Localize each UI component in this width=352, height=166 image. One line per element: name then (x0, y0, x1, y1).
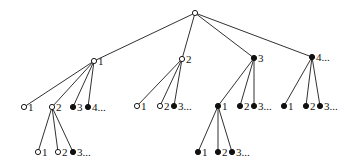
open-node-dot-icon (55, 149, 60, 154)
tree-nodes: 1234...1234...123...123...123...123...12… (21, 10, 338, 158)
open-node-dot-icon (134, 103, 139, 108)
filled-node-dot-icon (251, 55, 256, 60)
tree-edge (306, 57, 312, 106)
open-node-dot-icon (192, 10, 197, 15)
tree-node-n3_1: 1 (215, 100, 227, 112)
node-label: 1 (288, 100, 294, 112)
filled-node-dot-icon (215, 103, 220, 108)
tree-edge (195, 13, 312, 57)
node-label: 4... (92, 101, 106, 113)
node-label: 1 (42, 146, 48, 158)
tree-edge (195, 13, 254, 58)
filled-node-dot-icon (215, 149, 220, 154)
node-label: 1 (28, 101, 34, 113)
filled-node-dot-icon (229, 149, 234, 154)
open-node-dot-icon (49, 104, 54, 109)
filled-node-dot-icon (281, 103, 286, 108)
node-label: 1 (141, 100, 147, 112)
tree-edge (240, 58, 254, 106)
node-label: 2 (244, 100, 250, 112)
filled-node-dot-icon (85, 104, 90, 109)
tree-node-n3_1_1: 1 (195, 146, 207, 158)
filled-node-dot-icon (303, 103, 308, 108)
tree-node-n1_2: 2 (49, 101, 61, 113)
filled-node-dot-icon (171, 103, 176, 108)
tree-node-root (192, 10, 197, 15)
tree-edge (284, 57, 312, 106)
filled-node-dot-icon (70, 104, 75, 109)
node-label: 2 (222, 146, 228, 158)
node-label: 1 (98, 55, 104, 67)
tree-edge (312, 57, 320, 106)
filled-node-dot-icon (195, 149, 200, 154)
open-node-dot-icon (35, 149, 40, 154)
tree-edge (94, 13, 195, 61)
tree-node-n1_2_1: 1 (35, 146, 47, 158)
tree-node-n3_3: 3... (251, 100, 272, 112)
tree-node-n3_1_3: 3... (229, 146, 250, 158)
filled-node-dot-icon (251, 103, 256, 108)
tree-node-n1_2_3: 3... (70, 146, 91, 158)
node-label: 1 (222, 100, 228, 112)
tree-node-n3_2: 2 (237, 100, 249, 112)
node-label: 3... (324, 100, 338, 112)
tree-edge (160, 59, 182, 106)
tree-node-n1_3: 3 (70, 101, 83, 113)
node-label: 3... (178, 100, 192, 112)
open-node-dot-icon (91, 58, 96, 63)
node-label: 1 (202, 146, 208, 158)
tree-node-n4_1: 1 (281, 100, 293, 112)
tree-node-n4_2: 2 (303, 100, 315, 112)
open-node-dot-icon (179, 56, 184, 61)
node-label: 3... (236, 146, 250, 158)
tree-edge (198, 106, 218, 152)
filled-node-dot-icon (317, 103, 322, 108)
node-label: 3... (258, 100, 272, 112)
node-label: 2 (62, 146, 68, 158)
node-label: 2 (186, 53, 192, 65)
tree-node-n2_2: 2 (157, 100, 169, 112)
tree-node-n3_1_2: 2 (215, 146, 227, 158)
node-label: 3 (77, 101, 83, 113)
tree-edge (218, 58, 254, 106)
tree-diagram: 1234...1234...123...123...123...123...12… (0, 0, 352, 166)
node-label: 3 (258, 52, 264, 64)
node-label: 4... (316, 51, 330, 63)
tree-node-n2_1: 1 (134, 100, 146, 112)
filled-node-dot-icon (70, 149, 75, 154)
node-label: 3... (77, 146, 91, 158)
tree-node-n4_3: 3... (317, 100, 338, 112)
open-node-dot-icon (157, 103, 162, 108)
tree-edges (24, 13, 320, 152)
node-label: 2 (164, 100, 170, 112)
filled-node-dot-icon (237, 103, 242, 108)
tree-node-n3: 3 (251, 52, 264, 64)
open-node-dot-icon (21, 104, 26, 109)
node-label: 2 (310, 100, 316, 112)
node-label: 2 (56, 101, 62, 113)
filled-node-dot-icon (309, 54, 314, 59)
tree-node-n1_1: 1 (21, 101, 33, 113)
